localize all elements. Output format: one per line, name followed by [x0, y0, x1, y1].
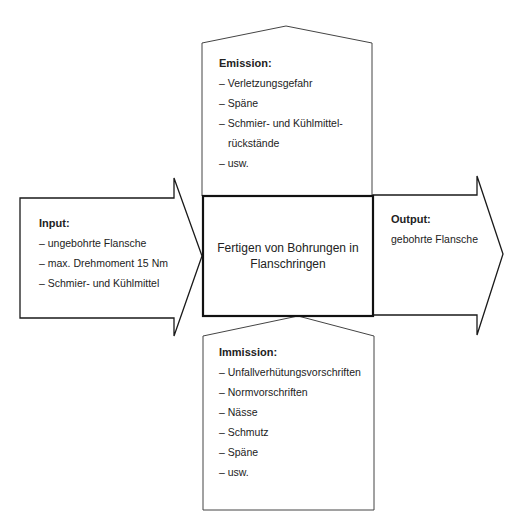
input-item: – Schmier- und Kühlmittel [39, 273, 168, 293]
emission-item: – usw. [219, 153, 343, 173]
immission-block: Immission: – Unfallverhütungsvorschrifte… [219, 342, 361, 482]
process-label: Fertigen von Bohrungen in Flanschringen [204, 196, 372, 316]
emission-block: Emission: – Verletzungsgefahr – Späne – … [219, 53, 343, 173]
output-block: Output: gebohrte Flansche [391, 209, 478, 249]
emission-item: rückstände [219, 133, 343, 153]
immission-item: – Nässe [219, 402, 361, 422]
input-block: Input: – ungebohrte Flansche – max. Dreh… [39, 213, 168, 293]
emission-item: – Verletzungsgefahr [219, 73, 343, 93]
output-arrow [373, 176, 503, 335]
input-item: – ungebohrte Flansche [39, 233, 168, 253]
immission-title: Immission: [219, 342, 361, 362]
emission-title: Emission: [219, 53, 343, 73]
immission-item: – Späne [219, 442, 361, 462]
output-title: Output: [391, 209, 478, 229]
immission-item: – Schmutz [219, 422, 361, 442]
immission-item: – usw. [219, 462, 361, 482]
input-title: Input: [39, 213, 168, 233]
immission-item: – Normvorschriften [219, 382, 361, 402]
input-item: – max. Drehmoment 15 Nm [39, 253, 168, 273]
emission-item: – Späne [219, 93, 343, 113]
output-item: gebohrte Flansche [391, 229, 478, 249]
immission-item: – Unfallverhütungsvorschriften [219, 362, 361, 382]
emission-item: – Schmier- und Kühlmittel- [219, 113, 343, 133]
